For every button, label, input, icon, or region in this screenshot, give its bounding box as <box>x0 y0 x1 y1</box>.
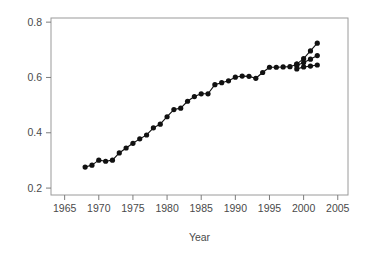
x-tick-label: 1995 <box>258 202 282 214</box>
data-point <box>151 125 156 130</box>
x-tick-label: 1970 <box>87 202 111 214</box>
data-point <box>96 158 101 163</box>
series-line-main <box>85 64 297 167</box>
series-line-branch-lower <box>297 65 317 69</box>
data-point <box>103 159 108 164</box>
data-point <box>171 107 176 112</box>
data-point <box>274 65 279 70</box>
data-point <box>110 158 115 163</box>
data-point <box>164 114 169 119</box>
data-point <box>199 91 204 96</box>
chart-container: 1965197019751980198519901995200020050.20… <box>0 0 373 258</box>
data-point <box>192 94 197 99</box>
data-point <box>260 70 265 75</box>
plot-frame <box>51 18 348 195</box>
x-tick-label: 1980 <box>155 202 179 214</box>
data-point <box>315 53 320 58</box>
data-point <box>124 145 129 150</box>
line-chart: 1965197019751980198519901995200020050.20… <box>0 0 373 258</box>
data-point <box>294 66 299 71</box>
data-point <box>267 65 272 70</box>
y-tick-label: 0.4 <box>27 126 42 138</box>
x-tick-label: 2005 <box>326 202 350 214</box>
x-tick-label: 1965 <box>53 202 77 214</box>
data-point <box>226 78 231 83</box>
x-tick-label: 2000 <box>292 202 316 214</box>
y-tick-label: 0.2 <box>27 182 42 194</box>
data-point <box>246 74 251 79</box>
data-point <box>287 64 292 69</box>
x-axis-title: Year <box>189 231 211 243</box>
x-tick-label: 1990 <box>224 202 248 214</box>
series-line-branch-middle <box>297 56 317 66</box>
data-point <box>205 91 210 96</box>
data-point <box>144 132 149 137</box>
data-point <box>137 136 142 141</box>
data-point <box>117 150 122 155</box>
y-tick-label: 0.8 <box>27 16 42 28</box>
data-point <box>240 73 245 78</box>
data-point <box>83 164 88 169</box>
data-point <box>158 122 163 127</box>
data-point <box>315 62 320 67</box>
data-point <box>89 163 94 168</box>
data-point <box>212 82 217 87</box>
data-point <box>219 80 224 85</box>
y-tick-label: 0.6 <box>27 71 42 83</box>
x-tick-label: 1985 <box>190 202 214 214</box>
data-point <box>301 64 306 69</box>
data-point <box>253 76 258 81</box>
data-point <box>281 64 286 69</box>
data-point <box>308 57 313 62</box>
data-point <box>308 64 313 69</box>
data-point <box>308 48 313 53</box>
data-point <box>233 75 238 80</box>
data-point <box>185 99 190 104</box>
x-tick-label: 1975 <box>121 202 145 214</box>
data-point <box>315 41 320 46</box>
data-point <box>130 141 135 146</box>
data-point <box>178 106 183 111</box>
